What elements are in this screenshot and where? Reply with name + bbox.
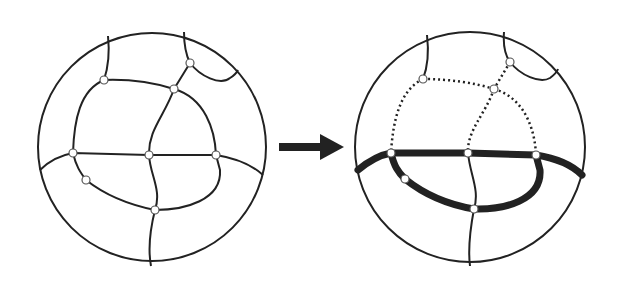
edge [73, 80, 104, 153]
graph-node [532, 151, 540, 159]
graph-node [506, 58, 514, 66]
right-arrow-icon [279, 134, 344, 160]
graph-node [401, 175, 409, 183]
graph-node [419, 75, 427, 83]
edge [104, 80, 174, 89]
graph-node [464, 149, 472, 157]
diagram-canvas [0, 0, 618, 299]
edge [174, 89, 216, 155]
edge [149, 89, 174, 266]
graph-node [100, 76, 108, 84]
graph-node [470, 205, 478, 213]
graph-node [69, 149, 77, 157]
graph-node [82, 176, 90, 184]
graph-node [170, 85, 178, 93]
graph-node [490, 85, 498, 93]
graph-node [212, 151, 220, 159]
graph-node [151, 206, 159, 214]
graph-node [145, 151, 153, 159]
dotted-edges [391, 62, 536, 155]
graph-node [387, 149, 395, 157]
edge [73, 153, 220, 210]
graph-node [186, 59, 194, 67]
